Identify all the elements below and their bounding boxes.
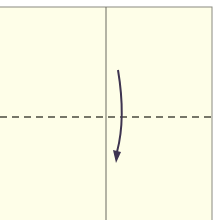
origami-diagram [0, 0, 220, 220]
